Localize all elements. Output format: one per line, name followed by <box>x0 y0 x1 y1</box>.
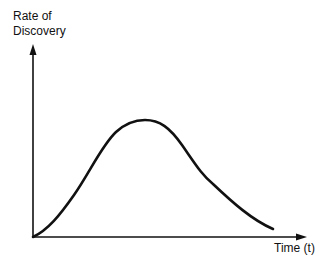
y-axis-arrow-icon <box>30 44 37 55</box>
discovery-rate-curve <box>33 120 273 237</box>
x-axis-arrow-icon <box>296 234 307 241</box>
discovery-curve-chart <box>0 0 334 264</box>
x-axis-label: Time (t) <box>274 241 315 255</box>
